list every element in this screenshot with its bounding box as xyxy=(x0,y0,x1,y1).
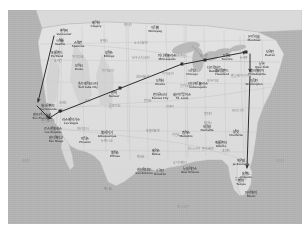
map-label-dallas-city: 댈러스Dallas xyxy=(152,150,161,156)
map-label--state: 노스다코타 xyxy=(134,42,149,45)
map-label--state: 텍사스 xyxy=(137,156,146,159)
map-label--state: 와이오밍 xyxy=(102,70,114,73)
map-canvas[interactable]: 몬태나와이오밍네바다유타콜로라도애리조나뉴멕시코텍사스캔자스아이오와일리노이오하… xyxy=(8,10,302,224)
map-label-san-antonio-city: 샌안토니오San Antonio xyxy=(135,169,152,175)
map-label-nashville-city: 내슈빌Nashville xyxy=(200,126,213,132)
map-label--state: 미시시피 xyxy=(188,148,200,151)
map-label--state: 아이다호 xyxy=(72,56,84,59)
map-label-denver-city: 덴버Denver xyxy=(109,92,119,98)
map-label-washington-city: 워싱턴Washington xyxy=(246,80,263,86)
map-label--state: 루이지애나 xyxy=(173,162,188,165)
map-label-montreal-city: 몬트리올Montreal xyxy=(248,36,261,42)
map-label-minneapolis-city: 미니애폴리스Minneapolis xyxy=(158,55,175,61)
map-label-los-angeles-city: 로스앤젤레스Los Angeles xyxy=(44,128,61,134)
map-label-sacramento-city: 새크라멘토Sacramento xyxy=(39,105,56,111)
map-label-vancouver-city: 밴쿠버Vancouver xyxy=(56,30,71,36)
map-label-tampa-city: 탬파Tampa xyxy=(236,180,245,186)
map-label--state: 미시간 xyxy=(200,55,209,58)
map-label-albuquerque-city: 앨버커키Albuquerque xyxy=(98,132,116,138)
map-label-gulf-of-mexico-water: 멕시코만 xyxy=(177,206,189,209)
map-label--state: 유타 xyxy=(85,100,91,103)
map-label-omaha-city: 오마하Omaha xyxy=(155,80,165,86)
map-label--state: 아이오와 xyxy=(162,73,174,76)
map-label--state: 네바다 xyxy=(59,102,68,105)
map-label-kansas-city-city: 캔자스시티Kansas City xyxy=(152,94,169,100)
map-label-houston-city: 휴스턴Houston xyxy=(154,170,166,176)
map-label--state: 사우스다코타 xyxy=(132,57,149,60)
map-label--state: 뉴욕주 xyxy=(240,57,249,60)
map-label--state: 미주리 xyxy=(166,106,175,109)
map-label-las-vegas-city: 라스베이거스Las Vegas xyxy=(62,119,79,125)
map-label--state: 켄터키 xyxy=(204,113,213,116)
map-label--state: 오리건 xyxy=(54,60,63,63)
map-label-charlotte-city: 샬럿Charlotte xyxy=(229,131,242,137)
map-label-el-paso-city: 엘파소El Paso xyxy=(110,152,120,158)
map-label-new-orleans-city: 뉴올리언스New Orleans xyxy=(181,168,199,174)
map-label--state: 버지니아 xyxy=(232,110,244,113)
map-label-st-louis-city: 세인트루이스St. Louis xyxy=(173,94,190,100)
map-label--state: 네브래스카 xyxy=(136,76,151,79)
map-label-memphis-city: 멤피스Memphis xyxy=(180,132,193,138)
map-label-spokane-city: 스포캔Spokane xyxy=(72,42,84,48)
map-label--state: 앨라배마 xyxy=(202,148,214,151)
map-label-chicago-city: 시카고Chicago xyxy=(186,70,197,76)
map-label-miami-city: 마이애미Miami xyxy=(245,192,257,198)
map-label--state: 애리조나 xyxy=(77,128,89,131)
map-label-phoenix-city: 피닉스Phoenix xyxy=(79,138,90,144)
map-label-san-francisco-city: 샌프란시스코San Francisco xyxy=(32,114,52,120)
map-label-toronto-city: 토론토Toronto xyxy=(222,55,233,61)
screenshot-root: 몬태나와이오밍네바다유타콜로라도애리조나뉴멕시코텍사스캔자스아이오와일리노이오하… xyxy=(0,0,306,233)
map-label-indianapolis-city: 인디애나폴리스Indianapolis xyxy=(188,83,208,89)
map-label--state: 오하이오 xyxy=(207,80,219,83)
map-label-seattle-city: 시애틀Seattle xyxy=(55,40,65,46)
map-label--state: 오클라호마 xyxy=(146,130,161,133)
map-label--state: 조지아 xyxy=(222,150,231,153)
map-label--state: 캐나다 xyxy=(124,24,133,27)
map-label-winnipeg-city: 위니펙Winnipeg xyxy=(148,27,162,33)
map-labels-layer: 몬태나와이오밍네바다유타콜로라도애리조나뉴멕시코텍사스캔자스아이오와일리노이오하… xyxy=(8,10,302,224)
map-label-boise-city: 보이시Boise xyxy=(75,65,84,71)
map-label--state: 캔자스 xyxy=(144,100,153,103)
map-label--state: 몬태나 xyxy=(100,40,109,43)
map-label-atlanta-city: 애틀랜타Atlanta xyxy=(215,142,227,148)
map-label-billings-city: 빌링스Billings xyxy=(104,52,114,58)
map-label-atlantic-ocean-water: 대서양 xyxy=(276,160,285,163)
map-label-salt-lake-city-city: 솔트레이크시티Salt Lake City xyxy=(78,83,98,89)
map-label--state: 캘리포니아 xyxy=(41,120,56,123)
map-label-boston-city: 보스턴Boston xyxy=(265,51,275,57)
map-label--state: 멕시코 xyxy=(104,188,113,191)
map-label--state: 펜실베이니아 xyxy=(231,75,248,78)
map-label-calgary-city: 캘거리Calgary xyxy=(91,22,102,28)
map-label--state: 콜로라도 xyxy=(109,105,121,108)
map-label-portland-city: 포틀랜드Portland xyxy=(51,52,63,58)
map-label-philadelphia-city: 필라델피아Philadelphia xyxy=(248,70,266,76)
map-label-pacific-ocean-water: 태평양 xyxy=(22,160,31,163)
map-label-jacksonville-city: 잭슨빌Jacksonville xyxy=(233,160,250,166)
map-label--state: 뉴멕시코 xyxy=(101,140,113,143)
map-label-san-diego-city: 샌디에이고San Diego xyxy=(49,137,64,143)
map-label-cleveland-city: 클리블랜드Cleveland xyxy=(215,70,230,76)
map-label--state: 위스콘신 xyxy=(174,55,186,58)
